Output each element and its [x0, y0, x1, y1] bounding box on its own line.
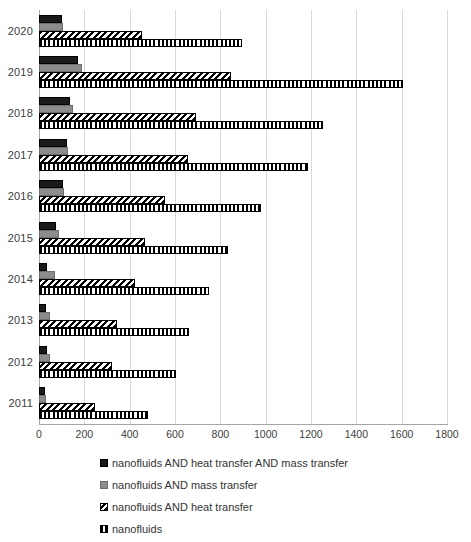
bar-diagonal-hatch-2015	[39, 238, 145, 246]
bar-solid-black-2016	[39, 180, 63, 188]
x-axis-tick-label: 200	[76, 428, 94, 440]
category-group: 2015	[39, 217, 447, 258]
bar-diagonal-hatch-2020	[39, 31, 142, 39]
legend-item-label: nanofluids AND heat transfer AND mass tr…	[112, 457, 348, 469]
plot-area: 2020201920182017201620152014201320122011	[39, 10, 447, 424]
bar-solid-gray-2013	[39, 312, 50, 320]
bar-vertical-hatch-2017	[39, 163, 308, 171]
bar-solid-gray-2014	[39, 271, 55, 279]
category-group: 2018	[39, 93, 447, 134]
y-axis-category-label: 2016	[8, 190, 33, 202]
bar-vertical-hatch-2011	[39, 411, 148, 419]
x-axis-tick-label: 1800	[435, 428, 458, 440]
y-axis-category-label: 2018	[8, 107, 33, 119]
bar-solid-gray-2018	[39, 105, 73, 113]
bar-solid-gray-2020	[39, 23, 63, 31]
bar-vertical-hatch-2015	[39, 246, 228, 254]
y-axis-category-label: 2015	[8, 232, 33, 244]
category-group: 2019	[39, 51, 447, 92]
bar-solid-gray-2017	[39, 147, 68, 155]
bar-diagonal-hatch-2017	[39, 155, 188, 163]
bar-vertical-hatch-2018	[39, 121, 323, 129]
bar-solid-black-2015	[39, 222, 56, 230]
y-axis-category-label: 2019	[8, 66, 33, 78]
category-group: 2011	[39, 383, 447, 424]
chart-legend: nanofluids AND heat transfer AND mass tr…	[100, 452, 430, 540]
bar-solid-black-2013	[39, 304, 46, 312]
solid-black-icon	[100, 459, 108, 467]
bar-solid-black-2019	[39, 56, 78, 64]
bar-vertical-hatch-2019	[39, 80, 403, 88]
legend-item[interactable]: nanofluids AND heat transfer AND mass tr…	[100, 452, 430, 474]
x-axis-tick-label: 600	[166, 428, 184, 440]
x-axis-tick-label: 400	[121, 428, 139, 440]
x-axis-tick-label: 1200	[299, 428, 322, 440]
y-axis-category-label: 2020	[8, 25, 33, 37]
bar-diagonal-hatch-2016	[39, 196, 165, 204]
category-group: 2020	[39, 10, 447, 51]
bar-vertical-hatch-2013	[39, 328, 189, 336]
x-axis-tick-label: 800	[212, 428, 230, 440]
legend-item-label: nanofluids	[112, 523, 162, 535]
bar-vertical-hatch-2012	[39, 370, 176, 378]
vertical-hatch-icon	[100, 525, 108, 533]
category-group: 2017	[39, 134, 447, 175]
y-axis-category-label: 2012	[8, 356, 33, 368]
x-axis-tick-label: 1400	[345, 428, 368, 440]
bar-solid-gray-2011	[39, 395, 46, 403]
bar-solid-gray-2019	[39, 64, 82, 72]
bar-solid-gray-2015	[39, 230, 59, 238]
gridline	[447, 10, 448, 424]
y-axis-category-label: 2014	[8, 273, 33, 285]
bar-diagonal-hatch-2013	[39, 320, 117, 328]
solid-gray-icon	[100, 481, 108, 489]
bar-diagonal-hatch-2014	[39, 279, 135, 287]
bar-solid-gray-2016	[39, 188, 64, 196]
legend-item[interactable]: nanofluids AND heat transfer	[100, 496, 430, 518]
y-axis-category-label: 2011	[9, 397, 33, 409]
bar-solid-black-2014	[39, 263, 47, 271]
legend-item[interactable]: nanofluids AND mass transfer	[100, 474, 430, 496]
category-group: 2013	[39, 300, 447, 341]
bar-vertical-hatch-2020	[39, 39, 242, 47]
bar-diagonal-hatch-2012	[39, 362, 112, 370]
x-axis-tick-label: 1600	[390, 428, 413, 440]
category-group: 2014	[39, 258, 447, 299]
bar-diagonal-hatch-2018	[39, 113, 196, 121]
bar-solid-black-2011	[39, 387, 45, 395]
category-group: 2016	[39, 176, 447, 217]
category-group: 2012	[39, 341, 447, 382]
bar-solid-black-2018	[39, 97, 70, 105]
bar-diagonal-hatch-2019	[39, 72, 231, 80]
bar-solid-gray-2012	[39, 354, 50, 362]
x-axis-tick-label: 0	[36, 428, 42, 440]
y-axis-category-label: 2013	[8, 314, 33, 326]
bar-diagonal-hatch-2011	[39, 403, 95, 411]
bar-vertical-hatch-2016	[39, 204, 261, 212]
x-axis-line	[39, 424, 448, 425]
bar-solid-black-2012	[39, 346, 47, 354]
bar-vertical-hatch-2014	[39, 287, 209, 295]
diagonal-hatch-icon	[100, 503, 108, 511]
bar-solid-black-2020	[39, 15, 62, 23]
x-axis-tick-label: 1000	[254, 428, 277, 440]
legend-item-label: nanofluids AND heat transfer	[112, 501, 253, 513]
bar-solid-black-2017	[39, 139, 67, 147]
legend-item-label: nanofluids AND mass transfer	[112, 479, 258, 491]
bar-chart: 2020201920182017201620152014201320122011…	[0, 0, 471, 542]
legend-item[interactable]: nanofluids	[100, 518, 430, 540]
y-axis-category-label: 2017	[8, 149, 33, 161]
